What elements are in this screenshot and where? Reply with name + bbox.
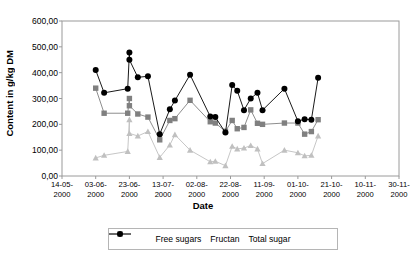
legend-item[interactable]: Total sugar bbox=[248, 234, 290, 244]
legend-marker-icon bbox=[109, 229, 131, 239]
x-axis-title: Date bbox=[0, 200, 406, 211]
x-tick-label: 11-09-2000 bbox=[253, 180, 274, 199]
legend-item[interactable]: Free sugars bbox=[155, 234, 201, 244]
x-tick-label: 23-06-2000 bbox=[118, 180, 140, 199]
x-tick-label: 01-10-2000 bbox=[287, 180, 309, 199]
x-tick-label: 14-05-2000 bbox=[51, 180, 73, 199]
legend-label: Fructan bbox=[210, 234, 239, 244]
x-tick-label: 02-08-2000 bbox=[186, 180, 208, 199]
x-tick-label: 13-07-2000 bbox=[152, 180, 174, 199]
x-tick-label: 30-11-2000 bbox=[388, 180, 409, 199]
x-tick-label: 21-10-2000 bbox=[321, 180, 343, 199]
x-tick-label: 10-11-2000 bbox=[355, 180, 376, 199]
x-tick-label: 03-06-2000 bbox=[85, 180, 107, 199]
legend-label: Free sugars bbox=[155, 234, 201, 244]
legend-item[interactable]: Fructan bbox=[210, 234, 239, 244]
chart-legend: Free sugarsFructanTotal sugar bbox=[108, 228, 338, 250]
legend-label: Total sugar bbox=[248, 234, 290, 244]
x-tick-label: 22-08-2000 bbox=[220, 180, 242, 199]
